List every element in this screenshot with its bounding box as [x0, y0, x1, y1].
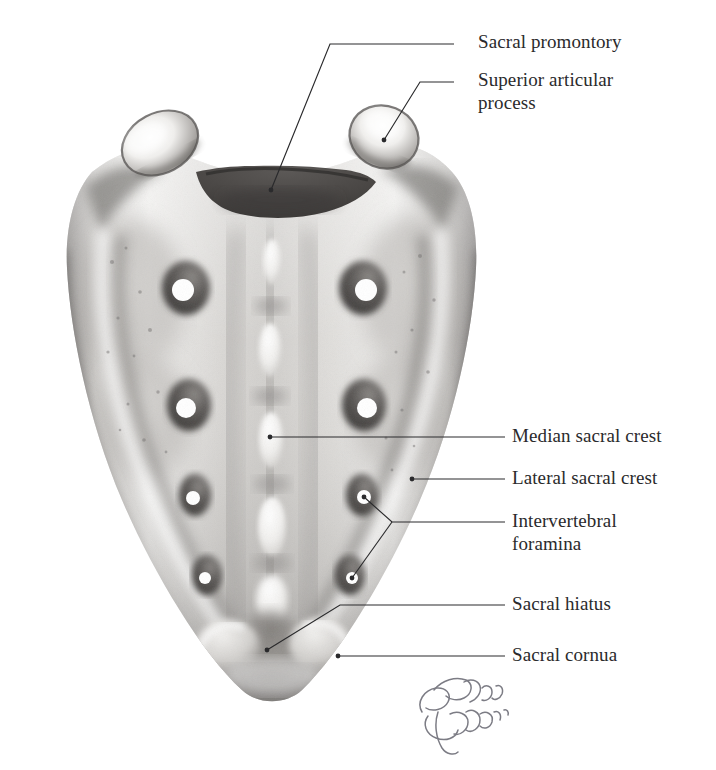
label-median-sacral-crest: Median sacral crest: [512, 424, 662, 447]
label-superior-articular-process: Superior articular process: [478, 68, 613, 114]
label-lateral-sacral-crest: Lateral sacral crest: [512, 466, 657, 489]
label-intervertebral-foramina: Intervertebral foramina: [512, 509, 617, 555]
label-sacral-hiatus: Sacral hiatus: [512, 592, 611, 615]
label-sacral-promontory: Sacral promontory: [478, 30, 622, 53]
label-sacral-cornua: Sacral cornua: [512, 643, 617, 666]
